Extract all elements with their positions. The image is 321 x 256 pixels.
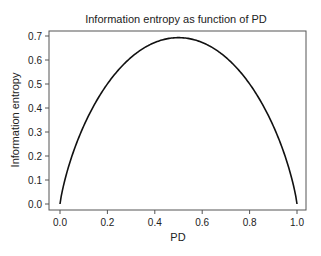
series-group [60,38,297,204]
series-line [60,38,297,204]
y-tick-label: 0.2 [28,151,42,162]
y-tick-label: 0.3 [28,127,42,138]
y-tick-label: 0.4 [28,103,42,114]
y-axis-label: Information entropy [9,72,21,167]
y-tick-label: 0.0 [28,199,42,210]
plot-frame [49,31,306,210]
x-axis-label: PD [170,231,185,243]
y-tick-label: 0.7 [28,31,42,42]
y-tick-label: 0.1 [28,175,42,186]
x-tick-label: 0.6 [195,217,209,228]
y-tick-label: 0.6 [28,55,42,66]
x-tick-label: 0.8 [243,217,257,228]
x-tick-label: 0.0 [53,217,67,228]
x-tick-label: 0.4 [148,217,162,228]
y-axis: 0.00.10.20.30.40.50.60.7 [28,31,49,210]
x-tick-label: 0.2 [100,217,114,228]
chart: Information entropy as function of PD 0.… [0,0,321,256]
chart-title: Information entropy as function of PD [85,13,267,25]
x-tick-label: 1.0 [290,217,304,228]
y-tick-label: 0.5 [28,79,42,90]
x-axis: 0.00.20.40.60.81.0 [53,210,304,228]
